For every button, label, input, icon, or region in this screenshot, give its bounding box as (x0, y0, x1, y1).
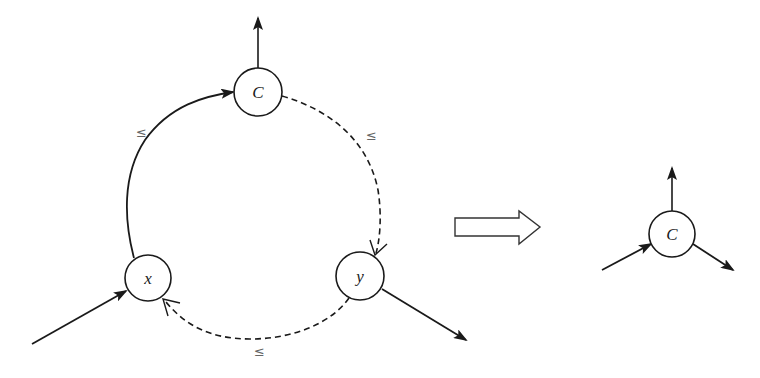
node-c-label: C (252, 83, 264, 102)
edge-y-to-x (166, 298, 349, 339)
right-graph: C (602, 168, 733, 270)
right-c-out-edge (693, 244, 733, 270)
y-out-edge (382, 289, 466, 340)
edge-c-to-y (282, 96, 380, 253)
node-c: C (234, 68, 282, 116)
node-y: y (336, 252, 384, 300)
edge-x-to-c (127, 92, 233, 258)
hollow-right-arrow-icon (455, 211, 540, 244)
edge-label-x-c: ≤ (136, 125, 147, 140)
right-c-in-edge (602, 244, 651, 270)
contraction-diagram: ≤ ≤ ≤ C x y C (0, 0, 760, 378)
node-x-label: x (143, 269, 152, 288)
right-node-c: C (649, 211, 695, 257)
left-graph: ≤ ≤ ≤ C x y (32, 18, 466, 359)
node-y-label: y (354, 267, 364, 286)
x-in-edge (32, 291, 126, 344)
open-arrowhead-icon (163, 299, 180, 316)
edge-label-y-x: ≤ (254, 344, 265, 359)
edge-label-c-y: ≤ (366, 128, 377, 143)
node-x: x (125, 255, 171, 301)
right-node-c-label: C (666, 225, 678, 244)
